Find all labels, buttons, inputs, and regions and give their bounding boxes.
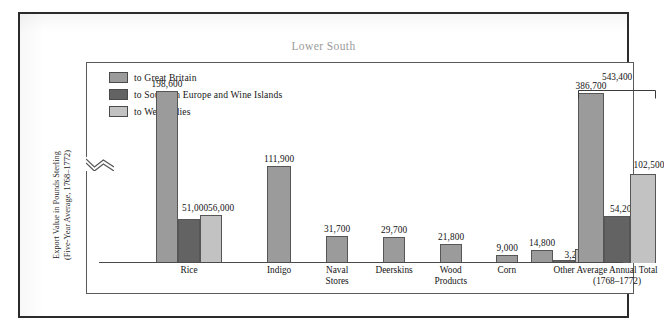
category-label-other: Other — [554, 265, 575, 276]
x-axis-baseline — [99, 262, 623, 263]
figure-frame: Lower South Export Value in Pounds Sterl… — [18, 12, 629, 318]
bar-average-annual-total-1768-1772-wi — [630, 174, 656, 263]
bar-naval-stores-gb — [326, 236, 348, 263]
bar-deerskins-gb — [383, 237, 405, 263]
bar-rice-se — [178, 219, 200, 263]
y-axis-label-line2: (Five-Year Average, 1768–1772) — [63, 110, 74, 300]
value-label-corn-gb: 9,000 — [497, 243, 518, 253]
bar-wood-products-gb — [440, 244, 462, 263]
value-label-indigo-gb: 111,900 — [264, 154, 294, 164]
value-label-rice-wi: 56,000 — [208, 203, 234, 213]
value-label-wood-products-gb: 21,800 — [438, 232, 464, 242]
category-label-line1: Corn — [498, 265, 517, 275]
bar-rice-wi — [200, 215, 222, 263]
category-label-line1: Indigo — [267, 265, 291, 275]
category-label-line1: Rice — [181, 265, 198, 275]
axis-break-zigzag-icon — [86, 157, 114, 171]
total-bracket-label: 543,400 — [602, 72, 632, 82]
category-label-line2: Stores — [326, 276, 349, 286]
category-label-line2: (1768–1772) — [593, 276, 641, 286]
bar-average-annual-total-1768-1772-gb — [578, 93, 604, 263]
value-label-other-gb: 14,800 — [529, 238, 555, 248]
category-label-line1: Deerskins — [376, 265, 413, 275]
category-label-line1: Other — [554, 265, 575, 275]
bar-indigo-gb — [267, 166, 291, 263]
category-label-rice: Rice — [181, 265, 198, 276]
y-axis-label-line1: Export Value in Pounds Sterling — [52, 151, 61, 259]
category-label-wood-products: WoodProducts — [435, 265, 468, 287]
category-label-indigo: Indigo — [267, 265, 291, 276]
bars-layer: 198,60051,00056,000Rice111,900Indigo31,7… — [87, 63, 633, 293]
total-bracket — [578, 85, 656, 94]
category-label-deerskins: Deerskins — [376, 265, 413, 276]
category-label-line1: Wood — [440, 265, 462, 275]
y-axis-label: Export Value in Pounds Sterling (Five-Ye… — [52, 110, 73, 300]
bar-average-annual-total-1768-1772-se — [604, 216, 630, 263]
category-label-corn: Corn — [498, 265, 517, 276]
chart-title: Lower South — [20, 40, 627, 52]
category-label-average-annual-total-1768-1772: Average Annual Total(1768–1772) — [577, 265, 658, 287]
value-label-naval-stores-gb: 31,700 — [324, 224, 350, 234]
category-label-line2: Products — [435, 276, 468, 286]
value-label-average-annual-total-1768-1772-wi: 102,500 — [634, 160, 664, 170]
category-label-line1: Average Annual Total — [577, 265, 658, 275]
plot-area: to Great Britain to Southern Europe and … — [86, 62, 634, 294]
value-label-deerskins-gb: 29,700 — [381, 225, 407, 235]
category-label-line1: Naval — [326, 265, 348, 275]
value-label-rice-se: 51,000 — [182, 203, 208, 213]
value-label-rice-gb: 198,600 — [152, 79, 183, 89]
category-label-naval-stores: NavalStores — [326, 265, 349, 287]
bar-rice-gb — [156, 91, 178, 263]
